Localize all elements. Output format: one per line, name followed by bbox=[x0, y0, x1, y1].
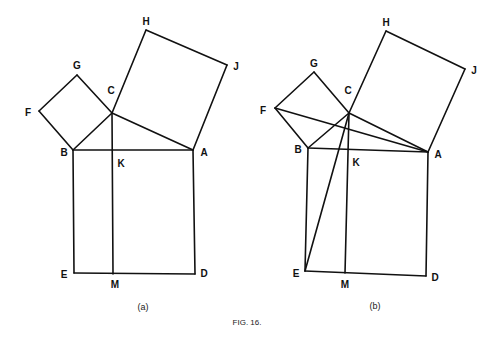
figure-b: ABCDEFGHJKM(b) bbox=[260, 17, 477, 311]
figure-a: ABCDEFGHJKM(a) bbox=[25, 16, 239, 312]
vertex-label-B: B bbox=[60, 147, 67, 158]
vertex-label-B: B bbox=[294, 144, 301, 155]
vertex-label-D: D bbox=[431, 272, 438, 283]
segment-BA bbox=[308, 148, 428, 152]
segment-CH bbox=[112, 30, 146, 113]
vertex-label-F: F bbox=[260, 105, 266, 116]
segment-CM bbox=[345, 113, 349, 273]
vertex-label-M: M bbox=[111, 279, 119, 290]
vertex-label-C: C bbox=[344, 85, 351, 96]
segment-BF bbox=[39, 111, 73, 150]
vertex-label-K: K bbox=[352, 157, 360, 168]
subfigure-label: (b) bbox=[370, 301, 381, 311]
figure-caption: FIG. 16. bbox=[233, 318, 262, 327]
vertex-label-C: C bbox=[107, 85, 114, 96]
segment-BE bbox=[73, 150, 74, 273]
segment-CH bbox=[349, 31, 386, 113]
vertex-label-E: E bbox=[61, 269, 68, 280]
segment-FG bbox=[275, 72, 314, 108]
segment-ED bbox=[74, 273, 195, 274]
vertex-label-F: F bbox=[25, 107, 31, 118]
subfigure-label: (a) bbox=[138, 302, 149, 312]
segment-CM bbox=[112, 113, 113, 274]
vertex-label-K: K bbox=[117, 158, 125, 169]
segment-CE bbox=[305, 113, 349, 271]
segment-DA bbox=[193, 150, 195, 274]
segment-HJ bbox=[386, 31, 465, 69]
segment-CB bbox=[308, 113, 349, 148]
vertex-label-M: M bbox=[341, 279, 349, 290]
segment-JA bbox=[428, 69, 465, 152]
vertex-label-G: G bbox=[310, 58, 318, 69]
segment-FG bbox=[39, 75, 77, 111]
vertex-label-J: J bbox=[471, 65, 477, 76]
segment-ED bbox=[305, 271, 426, 276]
vertex-label-A: A bbox=[200, 147, 207, 158]
segment-CB bbox=[73, 113, 112, 150]
vertex-label-J: J bbox=[233, 61, 239, 72]
vertex-label-E: E bbox=[293, 268, 300, 279]
pythagorean-proof-diagram: ABCDEFGHJKM(a) ABCDEFGHJKM(b) FIG. 16. bbox=[0, 0, 494, 339]
segment-BF bbox=[275, 108, 308, 148]
segment-AC bbox=[112, 113, 193, 150]
segment-HJ bbox=[146, 30, 227, 65]
segment-BE bbox=[305, 148, 308, 271]
vertex-label-A: A bbox=[434, 149, 441, 160]
segment-DA bbox=[426, 152, 428, 276]
vertex-label-H: H bbox=[382, 17, 389, 28]
vertex-label-H: H bbox=[142, 16, 149, 27]
vertex-label-G: G bbox=[73, 60, 81, 71]
vertex-label-D: D bbox=[200, 268, 207, 279]
segment-JA bbox=[193, 65, 227, 150]
